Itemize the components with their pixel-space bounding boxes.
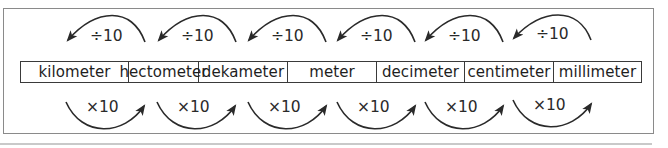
multiply-label: ×10 (445, 98, 478, 116)
divide-label: ÷10 (271, 27, 304, 45)
multiply-label: ×10 (533, 96, 566, 114)
divide-label: ÷10 (536, 25, 569, 43)
multiply-label: ×10 (268, 98, 301, 116)
divide-label: ÷10 (90, 27, 123, 45)
conversion-arrows (0, 0, 668, 148)
multiply-label: ×10 (357, 98, 390, 116)
divide-label: ÷10 (448, 27, 481, 45)
divide-label: ÷10 (181, 27, 214, 45)
multiply-label: ×10 (86, 98, 119, 116)
divide-label: ÷10 (360, 27, 393, 45)
multiply-label: ×10 (177, 98, 210, 116)
